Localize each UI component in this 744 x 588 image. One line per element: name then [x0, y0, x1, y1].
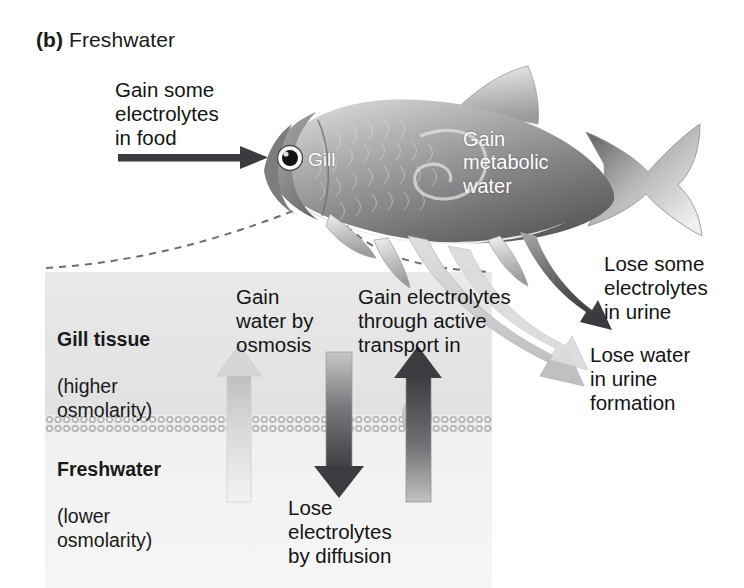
panel-title-text: Freshwater — [69, 28, 175, 51]
arrow-gain-water-osmosis — [217, 345, 261, 502]
label-gill-tissue-detail: (higher osmolarity) — [57, 375, 152, 420]
label-freshwater-name: Freshwater — [57, 458, 161, 481]
label-gain-metabolic-water: Gain metabolic water — [463, 128, 549, 198]
callout-gain-water-by-osmosis: Gain water by osmosis — [236, 285, 313, 357]
label-gill-tissue: Gill tissue (higher osmolarity) — [57, 305, 152, 422]
label-freshwater: Freshwater (lower osmolarity) — [57, 435, 161, 552]
fish-eye-glint — [283, 151, 288, 156]
callout-gain-electrolytes-food: Gain some electrolytes in food — [115, 78, 219, 150]
callout-lose-electrolytes-diffusion: Lose electrolytes by diffusion — [288, 496, 392, 568]
panel-letter: (b) — [36, 28, 63, 51]
label-gill-tissue-name: Gill tissue — [57, 328, 152, 351]
pelvic-fin — [374, 238, 410, 288]
callout-lose-electrolytes-urine: Lose some electrolytes in urine — [604, 252, 708, 324]
figure-canvas: (b) Freshwater Gain some electrolytes in… — [0, 0, 744, 588]
leader-line-upper — [46, 199, 322, 268]
callout-lose-water-urine-formation: Lose water in urine formation — [590, 343, 690, 415]
arrow-gain-electrolytes-active-transport — [394, 346, 442, 502]
callout-gain-electrolytes-active-transport: Gain electrolytes through active transpo… — [358, 285, 511, 357]
arrow-lose-electrolytes-diffusion — [314, 352, 364, 498]
anal-fin — [488, 236, 528, 286]
page-title: (b) Freshwater — [36, 28, 175, 52]
label-freshwater-detail: (lower osmolarity) — [57, 505, 152, 550]
arrow-lose-electrolytes-curved — [520, 232, 612, 330]
label-gill: Gill — [308, 149, 335, 171]
